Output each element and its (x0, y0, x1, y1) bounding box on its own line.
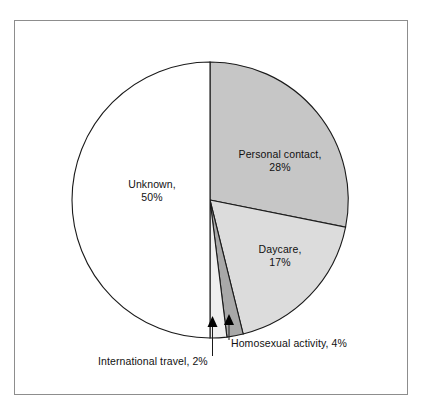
pie-label-personal-contact-line1: Personal contact, (215, 148, 345, 161)
pie-label-international-travel: International travel, 2% (98, 355, 208, 368)
pie-label-unknown: Unknown, 50% (97, 178, 207, 204)
pie-label-unknown-line1: Unknown, (97, 178, 207, 191)
pie-label-personal-contact: Personal contact, 28% (215, 148, 345, 174)
pie-label-homosexual-activity: Homosexual activity, 4% (231, 337, 347, 350)
pie-label-personal-contact-line2: 28% (215, 161, 345, 174)
pie-label-daycare-line1: Daycare, (232, 243, 328, 256)
pie-label-daycare: Daycare, 17% (232, 243, 328, 269)
chart-frame-border (14, 20, 408, 395)
pie-label-unknown-line2: 50% (97, 191, 207, 204)
figure-root: Personal contact, 28% Unknown, 50% Dayca… (0, 0, 423, 412)
pie-label-daycare-line2: 17% (232, 256, 328, 269)
